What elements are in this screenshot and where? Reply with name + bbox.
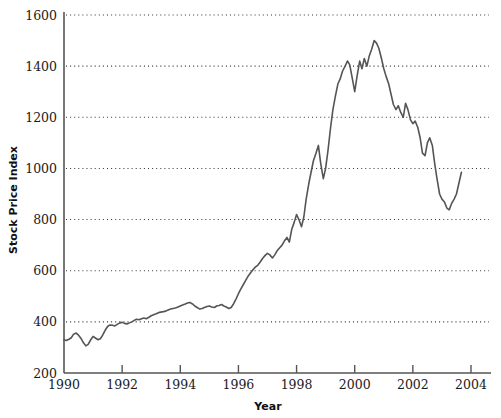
chart-figure: 2004006008001000120014001600 19901992199…: [0, 0, 501, 418]
data-series-line: [64, 41, 461, 346]
y-tick-label: 1200: [25, 110, 57, 125]
series-line-stock-price-index: [64, 41, 461, 346]
x-tick-label: 2002: [397, 377, 429, 392]
x-tick-label: 2000: [339, 377, 371, 392]
x-tick-label: 1994: [164, 377, 196, 392]
y-tick-label: 1400: [25, 59, 57, 74]
x-axis-title: Year: [253, 400, 282, 413]
y-tick-label: 1000: [25, 161, 57, 176]
x-axis: [64, 365, 491, 373]
y-tick-label: 600: [33, 263, 57, 278]
y-axis-title: Stock Price Index: [7, 146, 20, 254]
y-tick-label: 800: [33, 212, 57, 227]
x-tick-label: 2004: [455, 377, 487, 392]
x-tick-labels: 19901992199419961998200020022004: [48, 377, 487, 392]
y-tick-label: 1600: [25, 8, 57, 23]
gridlines: [66, 15, 489, 322]
y-tick-labels: 2004006008001000120014001600: [25, 8, 57, 381]
chart-canvas: 2004006008001000120014001600 19901992199…: [0, 0, 501, 418]
x-tick-label: 1992: [106, 377, 138, 392]
x-tick-label: 1990: [48, 377, 80, 392]
x-tick-label: 1998: [281, 377, 313, 392]
y-tick-label: 400: [33, 314, 57, 329]
x-tick-label: 1996: [223, 377, 255, 392]
